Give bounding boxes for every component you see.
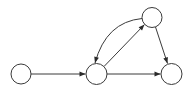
- edge-n2-to-n4: [104, 25, 145, 67]
- edge-n4-to-n3: [156, 27, 168, 64]
- edge-n4-to-n2-curved: [95, 19, 142, 64]
- graph-diagram: [0, 0, 193, 94]
- node-4: [142, 8, 162, 28]
- node-3: [161, 64, 182, 85]
- node-1: [11, 64, 31, 84]
- node-2: [86, 64, 107, 85]
